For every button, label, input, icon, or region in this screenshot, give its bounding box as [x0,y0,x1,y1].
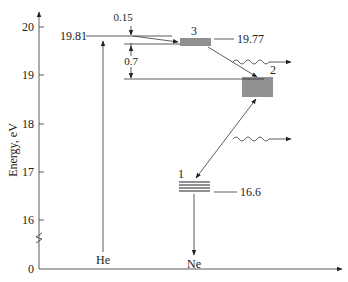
gap-small-label: 0.15 [113,11,133,23]
level3-value: 19.77 [237,32,264,46]
photon-emission-icon [233,137,291,141]
ne-label: Ne [187,257,201,271]
y-tick-17: 17 [22,165,34,179]
he-label: He [96,253,110,267]
y-axis-label: Energy, eV [6,123,20,177]
y-tick-16: 16 [22,213,34,227]
ne-level-2: 2 [242,63,276,96]
laser-transition-arrow [208,47,257,77]
photon-emission-icon [233,60,291,64]
y-tick-19: 19 [22,68,34,82]
ne-level-1: 1 [178,167,210,191]
gap-large-label: 0.7 [124,55,138,67]
y-tick-20: 20 [22,20,34,34]
energy-transfer-arrow [133,36,178,42]
level-2-number: 2 [270,63,276,77]
level2-level1-arrow [196,99,256,178]
level-3-number: 3 [191,24,197,38]
level1-value: 16.6 [240,185,261,199]
ne-level-3: 3 [180,24,211,45]
he-level-value: 19.81 [60,29,87,43]
energy-level-diagram: 20 19 18 17 16 0 Energy, eV He 19.81 0.1… [0,0,348,282]
y-tick-0: 0 [28,262,34,276]
y-tick-18: 18 [22,117,34,131]
y-axis: 20 19 18 17 16 0 Energy, eV [6,12,44,276]
level-1-number: 1 [178,167,184,181]
